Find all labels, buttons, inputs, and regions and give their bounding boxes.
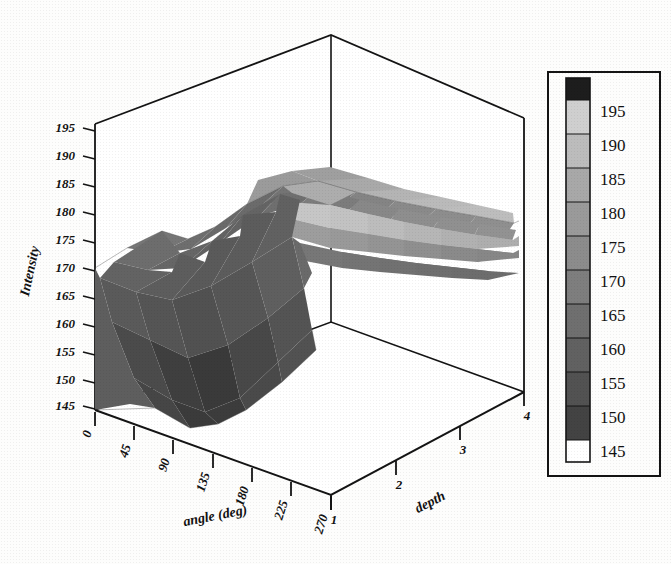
z-tick-marks [83, 128, 95, 409]
z-axis-label: Intensity [17, 244, 43, 298]
colorbar-tick-label: 170 [600, 272, 626, 291]
colorbar[interactable]: 195 190 185 180 175 170 165 160 155 150 … [548, 72, 660, 476]
colorbar-band [566, 304, 590, 338]
z-tick-label: 195 [56, 120, 76, 135]
z-tick-label: 165 [56, 288, 76, 303]
y-tick-label: 1 [331, 512, 338, 527]
colorbar-band [566, 372, 590, 406]
x-tick-label: 90 [155, 456, 173, 473]
y-axis-label: depth [412, 488, 447, 516]
colorbar-tick-label: 180 [600, 204, 626, 223]
x-tick-label: 135 [193, 470, 213, 494]
z-tick-label: 180 [56, 204, 76, 219]
figure-canvas: 195 190 185 180 175 170 165 160 155 150 … [0, 0, 671, 564]
colorbar-band [566, 100, 590, 134]
x-tick-label: 0 [79, 428, 95, 439]
colorbar-band [566, 406, 590, 440]
y-tick-label: 3 [459, 442, 467, 457]
z-tick-label: 155 [56, 344, 76, 359]
colorbar-tick-label: 195 [600, 102, 626, 121]
z-tick-label: 175 [56, 232, 76, 247]
z-axis: 195 190 185 180 175 170 165 160 155 150 … [17, 120, 95, 413]
z-tick-label: 185 [56, 176, 76, 191]
y-tick-label: 2 [395, 477, 403, 492]
z-tick-label: 170 [56, 260, 76, 275]
x-tick-label: 270 [310, 512, 331, 537]
colorbar-tick-label: 155 [600, 374, 626, 393]
colorbar-tick-label: 165 [600, 306, 626, 325]
x-tick-label: 45 [115, 442, 134, 460]
z-tick-label: 145 [56, 398, 76, 413]
colorbar-band [566, 270, 590, 304]
colorbar-band [566, 134, 590, 168]
colorbar-band [566, 168, 590, 202]
colorbar-band [566, 338, 590, 372]
colorbar-tick-label: 185 [600, 170, 626, 189]
x-axis-label: angle (deg) [182, 502, 249, 530]
y-tick-label: 4 [523, 408, 531, 423]
z-tick-label: 190 [56, 148, 76, 163]
z-tick-label: 160 [56, 316, 76, 331]
colorbar-over-swatch [566, 78, 590, 100]
colorbar-tick-label: 175 [600, 238, 626, 257]
colorbar-band [566, 236, 590, 270]
z-tick-label: 150 [56, 372, 76, 387]
colorbar-tick-label: 190 [600, 136, 626, 155]
colorbar-tick-label: 150 [600, 408, 626, 427]
colorbar-under-swatch [566, 440, 590, 462]
x-tick-label: 225 [270, 498, 291, 523]
colorbar-tick-label: 160 [600, 340, 626, 359]
surface-plot-svg: 195 190 185 180 175 170 165 160 155 150 … [0, 0, 671, 564]
colorbar-band [566, 202, 590, 236]
colorbar-tick-label: 145 [600, 442, 626, 461]
